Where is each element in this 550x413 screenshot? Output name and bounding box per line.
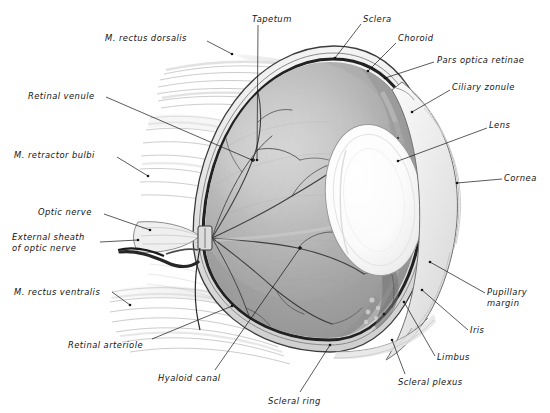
leader-tip-hyaloid-canal <box>299 247 302 250</box>
label-iris: Iris <box>470 325 484 336</box>
leader-tip-tapetum <box>256 159 259 162</box>
label-scleral-ring: Scleral ring <box>268 396 321 407</box>
label-line: Lens <box>489 120 510 131</box>
label-line: M. rectus dorsalis <box>105 33 187 44</box>
label-tapetum: Tapetum <box>252 14 292 25</box>
label-pars-optica-retinae: Pars optica retinae <box>437 55 524 66</box>
label-line: Scleral plexus <box>398 377 463 388</box>
leader-m-rectus-dorsalis <box>207 41 232 54</box>
label-hyaloid-canal: Hyaloid canal <box>158 373 221 384</box>
label-external-sheath-of-optic-nerve: External sheathof optic nerve <box>12 232 85 253</box>
leader-tip-retinal-venule <box>251 159 254 162</box>
leader-tip-optic-nerve <box>149 229 152 232</box>
leader-tip-scleral-plexus <box>391 339 394 342</box>
eye-anatomy-plate: M. rectus dorsalisTapetumScleraChoroidPa… <box>0 0 550 413</box>
label-line: of optic nerve <box>12 243 85 254</box>
label-line: Scleral ring <box>268 396 321 407</box>
label-line: Cornea <box>504 173 537 184</box>
leader-tip-external-sheath-of-optic-nerve <box>137 239 140 242</box>
label-line: External sheath <box>12 232 85 243</box>
leader-tip-m-rectus-ventralis <box>129 304 132 307</box>
label-ciliary-zonule: Ciliary zonule <box>452 82 515 93</box>
label-line: Ciliary zonule <box>452 82 515 93</box>
leader-tip-sclera <box>334 57 337 60</box>
leader-tip-scleral-ring <box>329 344 332 347</box>
leader-tip-m-rectus-dorsalis <box>231 53 234 56</box>
label-line: Choroid <box>398 33 434 44</box>
label-line: Sclera <box>363 14 392 25</box>
label-line: M. rectus ventralis <box>14 287 100 298</box>
label-line: Optic nerve <box>38 207 92 218</box>
leader-scleral-ring <box>300 345 330 392</box>
leader-tip-m-retractor-bulbi <box>147 175 150 178</box>
leader-tip-choroid <box>367 70 370 73</box>
label-line: Tapetum <box>252 14 292 25</box>
label-choroid: Choroid <box>398 33 434 44</box>
leader-tip-retinal-arteriole <box>231 305 234 308</box>
label-m-rectus-dorsalis: M. rectus dorsalis <box>105 33 187 44</box>
leader-tip-pupillary-margin <box>429 261 432 264</box>
label-line: Retinal arteriole <box>68 340 143 351</box>
leader-m-retractor-bulbi <box>117 157 148 176</box>
label-line: Iris <box>470 325 484 336</box>
label-m-retractor-bulbi: M. retractor bulbi <box>14 150 95 161</box>
label-line: Retinal venule <box>28 91 95 102</box>
leader-tip-iris <box>421 289 424 292</box>
leader-cornea <box>457 179 502 183</box>
leader-tip-lens <box>397 160 400 163</box>
leader-tip-pars-optica-retinae <box>384 77 387 80</box>
label-retinal-arteriole: Retinal arteriole <box>68 340 143 351</box>
label-line: Limbus <box>437 352 470 363</box>
label-line: Hyaloid canal <box>158 373 221 384</box>
label-line: Pupillary <box>487 287 527 298</box>
label-pupillary-margin: Pupillarymargin <box>487 287 527 308</box>
label-optic-nerve: Optic nerve <box>38 207 92 218</box>
label-line: margin <box>487 298 527 309</box>
leader-tip-cornea <box>456 182 459 185</box>
label-line: Pars optica retinae <box>437 55 524 66</box>
label-scleral-plexus: Scleral plexus <box>398 377 463 388</box>
label-cornea: Cornea <box>504 173 537 184</box>
optic-nerve <box>134 222 213 253</box>
leader-external-sheath-of-optic-nerve <box>100 240 138 242</box>
label-line: M. retractor bulbi <box>14 150 95 161</box>
label-limbus: Limbus <box>437 352 470 363</box>
leader-tip-ciliary-zonule <box>411 111 414 114</box>
label-retinal-venule: Retinal venule <box>28 91 95 102</box>
label-sclera: Sclera <box>363 14 392 25</box>
label-lens: Lens <box>489 120 510 131</box>
leader-tip-limbus <box>403 301 406 304</box>
label-m-rectus-ventralis: M. rectus ventralis <box>14 287 100 298</box>
